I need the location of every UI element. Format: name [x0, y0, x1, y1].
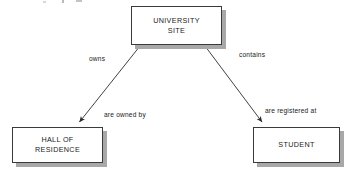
scan-artifact-speck	[62, 0, 64, 3]
relationship-label-are-registered-at: are registered at	[265, 106, 316, 115]
entity-node-university-site[interactable]: UNIVERSITY SITE	[131, 6, 222, 45]
relationship-label-owns: owns	[89, 54, 105, 63]
entity-node-label: STUDENT	[275, 140, 317, 150]
relationship-label-are-owned-by: are owned by	[104, 110, 146, 119]
entity-node-hall-of-residence[interactable]: HALL OF RESIDENCE	[12, 127, 103, 163]
entity-node-label: UNIVERSITY SITE	[150, 16, 203, 36]
relationship-label-contains: contains	[239, 50, 265, 59]
scan-artifact-speck	[43, 1, 46, 3]
entity-node-label: HALL OF RESIDENCE	[32, 135, 83, 155]
entity-node-student[interactable]: STUDENT	[253, 127, 340, 163]
diagram-canvas: UNIVERSITY SITE HALL OF RESIDENCE STUDEN…	[0, 0, 353, 180]
scan-artifact-speck	[76, 0, 82, 2]
